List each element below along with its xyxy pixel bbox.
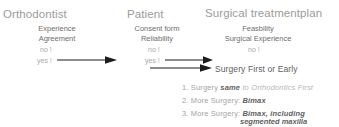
criteria-patient: Consent form Reliability [124,24,190,43]
flowchart-diagram: Orthodontist Patient Surgical treatmentp… [0,0,339,127]
column-title-surgical-treatmentplan: Surgical treatmentplan [205,7,322,19]
answer-no-patient: no ! [148,45,160,54]
answer-no-surgical: no ! [248,45,260,54]
option-number-3: 3. [182,109,189,118]
option-number-2: 2. [182,96,189,105]
criteria-orthodontist: Experience Agreement [24,24,90,43]
option-lead-2: More Surgery: [191,96,240,105]
option-lead-1: Surgery [191,83,218,92]
answer-no-orthodontist: no ! [40,45,52,54]
option-emphasis-3-line2: segmented maxilla [240,117,307,126]
option-item-1: 1. Surgery same to Orthodontics First [182,83,313,92]
arrow-right-icon [150,63,212,73]
column-title-orthodontist: Orthodontist [3,8,67,20]
option-emphasis-1: same [220,83,240,92]
option-emphasis-2: Bimax [243,96,266,105]
option-number-1: 1. [182,83,189,92]
option-lead-3: More Surgery: [191,109,240,118]
column-title-patient: Patient [127,8,164,20]
criteria-surgical-treatmentplan: Feasbility Surgical Experience [198,24,318,43]
arrow-right-icon [57,55,117,65]
answer-yes-orthodontist: yes ! [37,56,52,65]
option-tail-1: to Orthodontics First [242,83,313,92]
option-item-2: 2. More Surgery: Bimax [182,96,266,105]
outcome-label: Surgery First or Early [215,64,298,74]
